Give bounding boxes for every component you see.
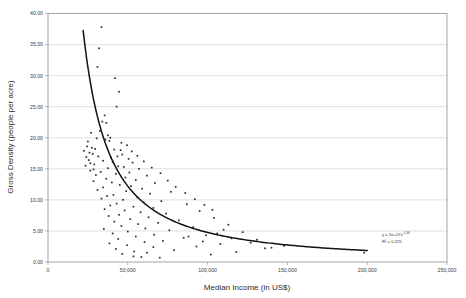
data-point — [108, 215, 110, 217]
data-point — [127, 231, 129, 233]
data-point — [89, 152, 91, 154]
data-point — [115, 173, 117, 175]
x-axis-ticks — [48, 262, 447, 265]
data-point — [188, 236, 190, 238]
data-point — [123, 166, 125, 168]
data-point — [137, 223, 139, 225]
data-point — [90, 132, 92, 134]
data-point — [133, 256, 135, 258]
data-point — [125, 177, 127, 179]
data-point — [173, 249, 175, 251]
data-point — [205, 234, 207, 236]
x-tick-label: 0 — [47, 267, 50, 273]
data-point — [109, 205, 111, 207]
data-point — [167, 180, 169, 182]
data-point — [101, 121, 103, 123]
data-point — [212, 209, 214, 211]
data-point — [144, 241, 146, 243]
gridlines — [48, 45, 447, 231]
x-tick-label: 150,000 — [278, 267, 297, 273]
data-point — [107, 167, 109, 169]
y-tick-label: 30.00 — [30, 73, 43, 79]
y-tick-label: 15.00 — [30, 166, 43, 172]
data-point — [116, 203, 118, 205]
data-point — [199, 210, 201, 212]
data-point — [116, 106, 118, 108]
data-point — [124, 210, 126, 212]
y-tick-label: 10.00 — [30, 197, 43, 203]
data-point — [125, 190, 127, 192]
data-point — [143, 161, 145, 163]
trend-line — [83, 30, 367, 250]
data-point — [109, 137, 111, 139]
data-point — [126, 144, 128, 146]
y-axis-tick-labels: 0.005.0010.0015.0020.0025.0030.0035.0040… — [30, 10, 43, 265]
data-point — [133, 206, 135, 208]
x-tick-label: 250,000 — [438, 267, 457, 273]
data-point — [109, 140, 111, 142]
data-point — [128, 158, 130, 160]
data-point — [107, 134, 109, 136]
data-point — [85, 165, 87, 167]
data-point — [96, 138, 98, 140]
data-point — [227, 224, 229, 226]
data-point — [112, 233, 114, 235]
data-point — [140, 211, 142, 213]
data-point — [118, 91, 120, 93]
data-point — [113, 194, 115, 196]
data-point — [363, 252, 365, 254]
data-point — [162, 240, 164, 242]
data-point — [117, 165, 119, 167]
data-point — [196, 246, 198, 248]
data-point — [250, 242, 252, 244]
data-point — [109, 243, 111, 245]
data-point — [146, 252, 148, 254]
data-point — [213, 217, 215, 219]
data-point — [129, 172, 131, 174]
data-point — [145, 228, 147, 230]
data-point — [102, 187, 104, 189]
data-point — [88, 159, 90, 161]
data-point — [220, 243, 222, 245]
data-point — [105, 178, 107, 180]
data-point — [114, 77, 116, 79]
data-point — [135, 236, 137, 238]
data-point — [152, 207, 154, 209]
x-tick-label: 100,000 — [198, 267, 217, 273]
data-point — [168, 229, 170, 231]
data-point — [149, 193, 151, 195]
data-point — [138, 168, 140, 170]
x-axis-title: Median Income (in US$) — [204, 283, 291, 292]
data-point — [202, 241, 204, 243]
scatter-chart: 0.005.0010.0015.0020.0025.0030.0035.0040… — [0, 0, 466, 298]
data-point — [95, 174, 97, 176]
data-point — [264, 247, 266, 249]
data-point — [118, 214, 120, 216]
data-point — [87, 141, 89, 143]
data-point — [223, 229, 225, 231]
data-point — [111, 182, 113, 184]
data-point — [271, 247, 273, 249]
data-point — [126, 244, 128, 246]
x-axis-tick-labels: 050,000100,000150,000200,000250,000 — [47, 267, 457, 273]
data-point — [152, 246, 154, 248]
r-squared-text: R² = 0.225 — [382, 239, 402, 244]
data-point — [184, 192, 186, 194]
y-tick-label: 5.00 — [33, 228, 43, 234]
y-tick-label: 25.00 — [30, 104, 43, 110]
data-point — [101, 198, 103, 200]
data-point — [119, 184, 121, 186]
data-point — [170, 191, 172, 193]
y-tick-label: 35.00 — [30, 41, 43, 47]
data-point — [157, 222, 159, 224]
data-points — [83, 26, 365, 258]
data-point — [178, 220, 180, 222]
data-point — [104, 208, 106, 210]
data-point — [135, 179, 137, 181]
data-point — [115, 248, 117, 250]
y-tick-label: 0.00 — [33, 259, 43, 265]
data-point — [137, 155, 139, 157]
data-point — [91, 147, 93, 149]
data-point — [186, 203, 188, 205]
data-point — [121, 154, 123, 156]
